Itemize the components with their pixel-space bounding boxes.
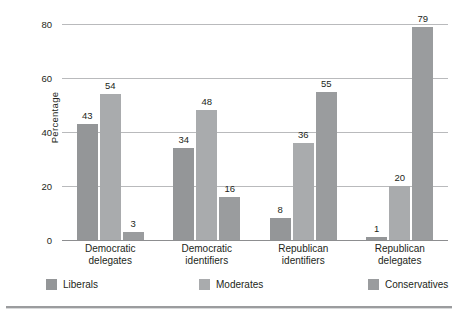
x-axis-label-line: identifiers	[255, 255, 352, 267]
x-axis-label-2: Republicanidentifiers	[255, 243, 352, 266]
bar-moderates-1: 48	[196, 110, 217, 240]
legend-swatch-icon	[46, 279, 57, 290]
x-axis-label-line: Democratic	[62, 243, 159, 255]
x-axis-label-0: Democraticdelegates	[62, 243, 159, 266]
chart-legend: LiberalsModeratesConservatives	[46, 279, 442, 293]
gridline-80	[62, 24, 448, 25]
legend-label: Liberals	[63, 279, 98, 290]
x-axis-label-line: identifiers	[159, 255, 256, 267]
bar-value-label: 3	[131, 219, 136, 229]
bar-value-label: 55	[321, 79, 332, 89]
x-axis-label-line: delegates	[62, 255, 159, 267]
x-axis-label-line: Republican	[352, 243, 449, 255]
x-axis-category-labels: DemocraticdelegatesDemocraticidentifiers…	[62, 243, 448, 269]
legend-label: Moderates	[216, 279, 263, 290]
bar-conservatives-0: 3	[123, 232, 144, 240]
bar-conservatives-1: 16	[219, 197, 240, 240]
bar-value-label: 36	[298, 130, 309, 140]
bar-value-label: 1	[374, 224, 379, 234]
bar-conservatives-2: 55	[316, 92, 337, 241]
y-tick-label-20: 20	[0, 182, 52, 192]
bar-conservatives-3: 79	[412, 27, 433, 240]
bar-moderates-2: 36	[293, 143, 314, 240]
legend-label: Conservatives	[385, 279, 448, 290]
x-axis-label-line: delegates	[352, 255, 449, 267]
bar-liberals-0: 43	[77, 124, 98, 240]
legend-item-moderates[interactable]: Moderates	[199, 279, 263, 290]
y-tick-label-80: 80	[0, 20, 52, 30]
bar-liberals-1: 34	[173, 148, 194, 240]
y-axis: 80 60 40 20 0 Percentage	[0, 0, 62, 318]
bar-liberals-3: 1	[366, 237, 387, 240]
x-axis-label-3: Republicandelegates	[352, 243, 449, 266]
legend-item-conservatives[interactable]: Conservatives	[368, 279, 448, 290]
x-axis-label-line: Democratic	[159, 243, 256, 255]
bar-value-label: 20	[394, 173, 405, 183]
bar-value-label: 8	[278, 205, 283, 215]
bar-value-label: 16	[224, 184, 235, 194]
gridline-60	[62, 78, 448, 79]
legend-swatch-icon	[199, 279, 210, 290]
bar-value-label: 54	[105, 81, 116, 91]
bar-value-label: 43	[82, 111, 93, 121]
x-axis-label-1: Democraticidentifiers	[159, 243, 256, 266]
legend-swatch-icon	[368, 279, 379, 290]
plot-area: 435433448168365512079	[62, 24, 448, 240]
bar-moderates-3: 20	[389, 186, 410, 240]
legend-item-liberals[interactable]: Liberals	[46, 279, 98, 290]
x-axis-label-line: Republican	[255, 243, 352, 255]
y-axis-title: Percentage	[49, 58, 60, 178]
bar-value-label: 79	[417, 14, 428, 24]
gridline-0	[62, 240, 448, 241]
y-tick-label-40: 40	[0, 128, 52, 138]
footer-rule	[6, 306, 452, 308]
bar-value-label: 34	[178, 135, 189, 145]
bar-chart-figure: 80 60 40 20 0 Percentage 435433448168365…	[0, 0, 458, 318]
bar-liberals-2: 8	[270, 218, 291, 240]
bar-value-label: 48	[201, 97, 212, 107]
bar-moderates-0: 54	[100, 94, 121, 240]
y-tick-label-60: 60	[0, 74, 52, 84]
y-tick-label-0: 0	[0, 236, 52, 246]
